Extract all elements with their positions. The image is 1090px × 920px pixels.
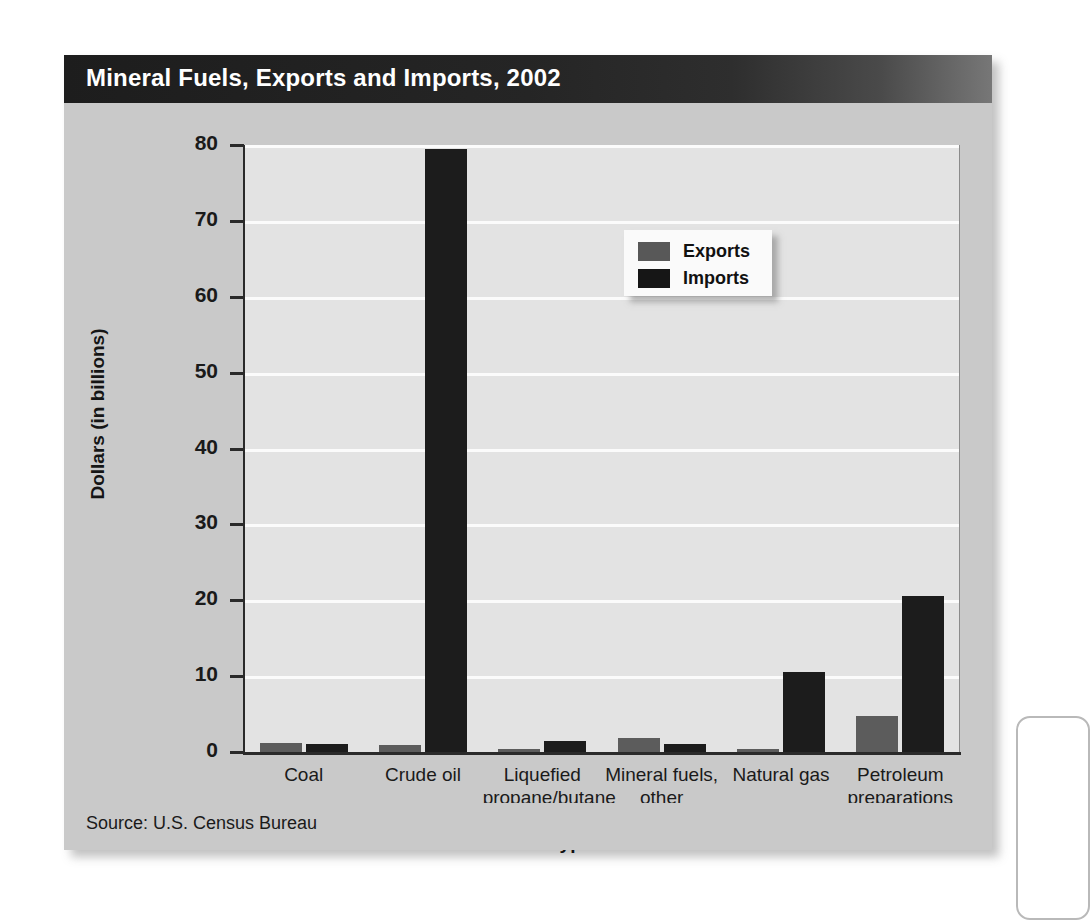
y-axis-tick-label: 40 bbox=[160, 435, 218, 459]
y-axis-tick bbox=[230, 675, 244, 678]
legend-label-imports: Imports bbox=[683, 268, 749, 289]
y-axis-title: Dollars (in billions) bbox=[87, 284, 109, 544]
bar-exports-5 bbox=[856, 716, 898, 752]
gridline bbox=[245, 524, 959, 527]
y-axis-tick bbox=[230, 220, 244, 223]
legend-label-exports: Exports bbox=[683, 241, 750, 262]
chart-legend: Exports Imports bbox=[624, 230, 772, 296]
chart-title-bar: Mineral Fuels, Exports and Imports, 2002 bbox=[64, 55, 992, 103]
bar-exports-0 bbox=[260, 743, 302, 752]
gridline bbox=[245, 373, 959, 376]
gridline bbox=[245, 676, 959, 679]
gridline bbox=[245, 221, 959, 224]
y-axis-tick-label: 30 bbox=[160, 510, 218, 534]
bar-exports-2 bbox=[498, 749, 540, 752]
y-axis-tick bbox=[230, 448, 244, 451]
x-axis-category-line: Mineral fuels, bbox=[602, 763, 721, 786]
y-axis-tick bbox=[230, 751, 244, 754]
x-axis-category-line: Coal bbox=[244, 763, 363, 786]
gridline bbox=[245, 145, 959, 148]
legend-item-exports: Exports bbox=[638, 238, 750, 264]
legend-item-imports: Imports bbox=[638, 265, 749, 291]
x-axis-category-line: Natural gas bbox=[721, 763, 840, 786]
gridline bbox=[245, 600, 959, 603]
x-axis-line bbox=[243, 752, 961, 755]
bar-imports-2 bbox=[544, 741, 586, 752]
source-strip: Source: U.S. Census Bureau bbox=[64, 803, 992, 850]
bar-imports-4 bbox=[783, 672, 825, 752]
bar-imports-0 bbox=[306, 744, 348, 752]
x-axis-category-line: Liquefied bbox=[483, 763, 602, 786]
page-edge-artifact bbox=[1016, 716, 1090, 920]
y-axis-tick-label: 50 bbox=[160, 359, 218, 383]
plot-shell: 01020304050607080 CoalCrude oilLiquefied… bbox=[64, 103, 992, 803]
x-axis-category-line: Crude oil bbox=[363, 763, 482, 786]
legend-swatch-exports-icon bbox=[638, 242, 670, 261]
x-axis-category-label: Coal bbox=[244, 763, 363, 786]
y-axis-tick bbox=[230, 372, 244, 375]
plot-area bbox=[244, 145, 960, 753]
x-axis-category-label: Crude oil bbox=[363, 763, 482, 786]
y-axis-tick bbox=[230, 599, 244, 602]
bar-exports-4 bbox=[737, 749, 779, 752]
source-note: Source: U.S. Census Bureau bbox=[86, 813, 317, 834]
gridline bbox=[245, 449, 959, 452]
bar-imports-1 bbox=[425, 149, 467, 752]
bar-exports-1 bbox=[379, 745, 421, 752]
y-axis-tick-label: 70 bbox=[160, 207, 218, 231]
y-axis-tick bbox=[230, 144, 244, 147]
y-axis-tick-label: 0 bbox=[160, 738, 218, 762]
bar-imports-5 bbox=[902, 596, 944, 752]
page-title: Mineral Fuels, Exports and Imports, 2002 bbox=[86, 64, 561, 92]
y-axis-tick-label: 10 bbox=[160, 662, 218, 686]
y-axis-tick bbox=[230, 296, 244, 299]
y-axis-tick bbox=[230, 523, 244, 526]
chart-figure-panel: Mineral Fuels, Exports and Imports, 2002… bbox=[64, 55, 992, 850]
y-axis-tick-label: 80 bbox=[160, 131, 218, 155]
bar-imports-3 bbox=[664, 744, 706, 752]
y-axis-tick-label: 20 bbox=[160, 586, 218, 610]
bar-exports-3 bbox=[618, 738, 660, 752]
legend-swatch-imports-icon bbox=[638, 269, 670, 288]
x-axis-category-label: Natural gas bbox=[721, 763, 840, 786]
gridline bbox=[245, 297, 959, 300]
x-axis-category-line: Petroleum bbox=[841, 763, 960, 786]
y-axis-tick-label: 60 bbox=[160, 283, 218, 307]
